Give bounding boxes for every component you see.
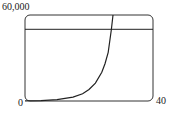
plot-area [0, 0, 169, 114]
exponential-curve [25, 15, 113, 101]
plot-frame [25, 15, 153, 101]
